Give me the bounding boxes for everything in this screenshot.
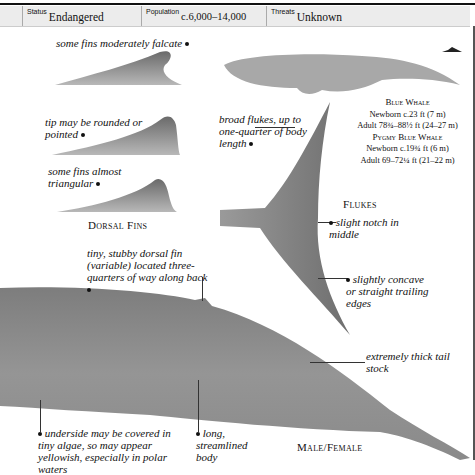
threats-label: Threats — [271, 8, 295, 15]
blue-whale-silhouette — [222, 50, 462, 100]
pointer-line — [318, 278, 348, 279]
status-label: Status — [27, 8, 47, 15]
population-value: c.6,000–14,000 — [181, 11, 246, 22]
threats-cell: Threats Unknown — [266, 6, 470, 26]
dorsal-fins-caption: Dorsal Fins — [88, 219, 147, 231]
blue-whale-newborn: Newborn c.23 ft (7 m) — [350, 109, 465, 121]
info-bar: Status Endangered Population c.6,000–14,… — [0, 6, 470, 27]
label-broad-flukes: broad flukes, up to one-quarter of body … — [219, 113, 319, 149]
threats-value: Unknown — [297, 11, 342, 23]
flukes-caption: Flukes — [343, 198, 377, 210]
blue-whale-adult: Adult 78¾–88½ ft (24–27 m) — [350, 120, 465, 132]
pointer-dot — [249, 142, 253, 146]
population-label: Population — [146, 8, 179, 15]
pointer-dot — [87, 288, 91, 292]
label-rounded: tip may be rounded or pointed — [45, 116, 170, 140]
population-cell: Population c.6,000–14,000 — [141, 6, 266, 26]
status-value: Endangered — [49, 11, 104, 23]
label-dorsal-fin: tiny, stubby dorsal fin (variable) locat… — [87, 247, 212, 295]
top-rule — [0, 3, 475, 5]
pygmy-newborn: Newborn c.19¾ ft (6 m) — [350, 143, 465, 155]
label-notch: slight notch in middle — [329, 216, 419, 240]
pygmy-adult: Adult 69–72¼ ft (21–22 m) — [350, 155, 465, 167]
status-cell: Status Endangered — [22, 6, 141, 26]
label-triangular: some fins almost triangular — [48, 165, 168, 189]
male-female-caption: Male/Female — [297, 441, 362, 453]
info-spacer — [0, 6, 22, 26]
diver-scale-icon — [440, 45, 464, 55]
label-tail-stock: extremely thick tail stock — [366, 350, 466, 374]
pointer-line — [310, 362, 365, 363]
size-box: Blue Whale Newborn c.23 ft (7 m) Adult 7… — [350, 97, 465, 166]
label-underside: underside may be covered in tiny algae, … — [38, 427, 188, 475]
pointer-dot — [96, 182, 100, 186]
pointer-dot — [185, 42, 189, 46]
label-falcate: some fins moderately falcate — [56, 37, 189, 49]
pointer-line — [198, 380, 199, 432]
dorsal-fin-falcate — [50, 50, 190, 90]
pygmy-title: Pygmy Blue Whale — [350, 132, 465, 144]
pointer-dot — [196, 432, 200, 436]
blue-whale-title: Blue Whale — [350, 97, 465, 109]
pointer-dot — [38, 432, 42, 436]
pointer-dot — [81, 133, 85, 137]
label-streamlined: long, streamlined body — [196, 427, 256, 463]
pointer-dot — [329, 221, 333, 225]
